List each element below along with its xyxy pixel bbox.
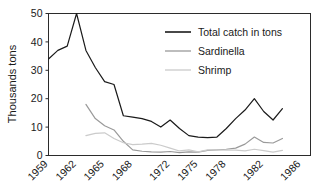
y-tick-label: 40	[31, 36, 43, 48]
legend-label: Total catch in tons	[198, 26, 282, 38]
y-axis-title: Thousands tons	[6, 44, 18, 123]
series-line	[86, 133, 283, 152]
line-chart: 01020304050 Thousands tons 1959196219651…	[0, 0, 323, 194]
chart-legend: Total catch in tonsSardinellaShrimp	[165, 26, 282, 76]
y-axis-tick-labels: 01020304050	[31, 7, 43, 161]
x-tick-label: 1959	[25, 157, 50, 182]
x-tick-label: 1972	[147, 157, 172, 182]
x-tick-label: 1975	[175, 157, 200, 182]
y-tick-label: 50	[31, 7, 43, 19]
legend-label: Sardinella	[198, 45, 245, 57]
x-tick-label: 1968	[109, 157, 134, 182]
series-line	[86, 104, 283, 152]
y-tick-label: 30	[31, 64, 43, 76]
x-tick-label: 1965	[81, 157, 106, 182]
x-tick-label: 1982	[240, 157, 265, 182]
x-axis-tick-labels: 195919621965196819721975197819821986	[25, 157, 303, 182]
x-tick-label: 1962	[53, 157, 78, 182]
chart-figure: 01020304050 Thousands tons 1959196219651…	[0, 0, 323, 194]
x-tick-label: 1978	[203, 157, 228, 182]
legend-label: Shrimp	[198, 64, 231, 76]
x-tick-label: 1986	[278, 157, 303, 182]
y-tick-label: 20	[31, 92, 43, 104]
y-tick-label: 10	[31, 121, 43, 133]
